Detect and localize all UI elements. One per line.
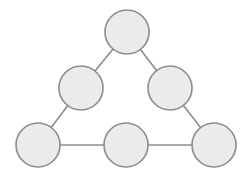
node-top	[105, 10, 149, 54]
node-graph	[0, 0, 247, 180]
node-bottom-left	[16, 123, 60, 167]
node-mid-right	[148, 66, 192, 110]
node-mid-left	[59, 66, 103, 110]
node-bottom-right	[192, 123, 236, 167]
node-bottom-mid	[104, 123, 148, 167]
nodes-group	[16, 10, 236, 167]
diagram-canvas	[0, 0, 247, 180]
